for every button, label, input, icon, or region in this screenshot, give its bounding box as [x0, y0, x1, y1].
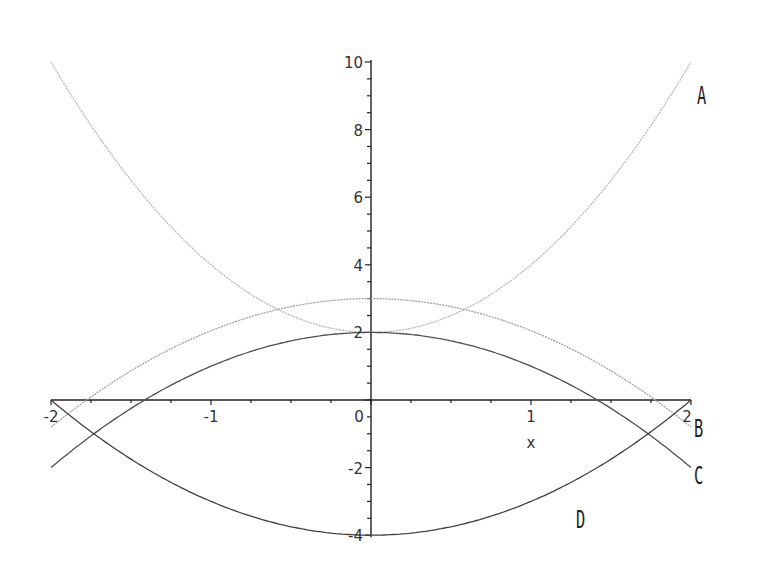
y-tick-label: 10	[344, 54, 363, 72]
curve-label-a: A	[697, 81, 706, 110]
chart: -2-1012x-4-2246810ABCD	[0, 0, 759, 579]
y-tick-label: 2	[353, 324, 363, 342]
curve-label-b: B	[694, 414, 703, 443]
x-axis-label: x	[527, 434, 536, 452]
y-tick-label: 6	[353, 189, 363, 207]
curve-label-d: D	[576, 505, 585, 534]
y-tick-label: 8	[353, 122, 363, 140]
x-tick-label: -2	[44, 408, 59, 426]
y-tick-label: 4	[353, 257, 363, 275]
x-tick-label: 2	[682, 408, 692, 426]
y-tick-label: -2	[348, 460, 363, 478]
x-tick-label: -1	[204, 408, 219, 426]
x-tick-label: 1	[526, 408, 536, 426]
curve-label-c: C	[694, 461, 703, 490]
labels: -2-1012x-4-2246810ABCD	[44, 54, 707, 545]
y-tick-label: -4	[348, 527, 363, 545]
x-tick-label: 0	[354, 408, 364, 426]
